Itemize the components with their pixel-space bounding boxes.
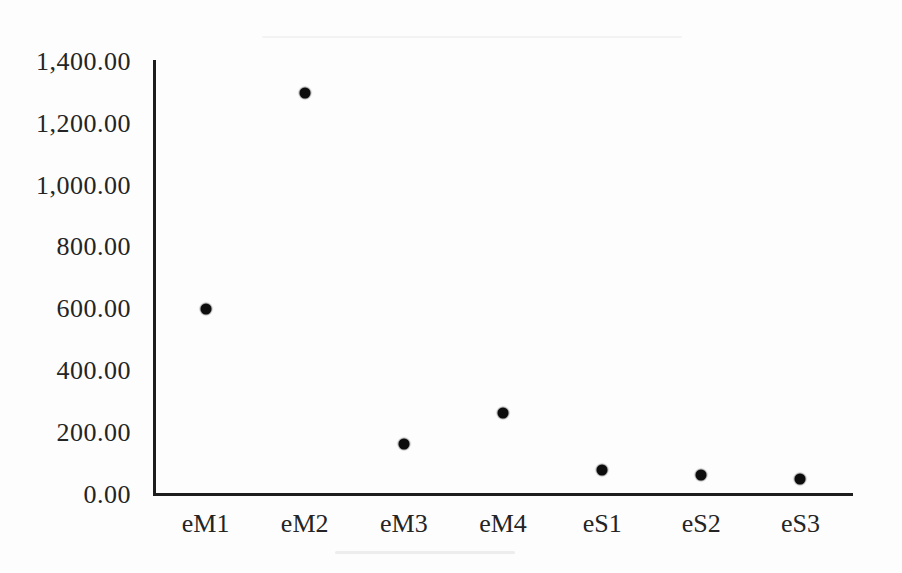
data-point-eM3 xyxy=(398,438,409,449)
x-tick-label: eM2 xyxy=(255,509,355,539)
scan-artifact-line xyxy=(335,551,515,554)
x-tick-label: eM1 xyxy=(156,509,256,539)
data-point-eM2 xyxy=(299,87,310,98)
data-point-eS1 xyxy=(597,464,608,475)
y-tick-label: 1,200.00 xyxy=(6,109,131,139)
x-tick-label: eM4 xyxy=(453,509,553,539)
y-tick-label: 600.00 xyxy=(6,294,131,324)
y-tick-label: 1,400.00 xyxy=(6,47,131,77)
x-tick-label: eS2 xyxy=(651,509,751,539)
x-tick-label: eS3 xyxy=(750,509,850,539)
y-tick-label: 1,000.00 xyxy=(6,171,131,201)
data-point-eM1 xyxy=(200,304,211,315)
x-tick-label: eM3 xyxy=(354,509,454,539)
y-tick-label: 0.00 xyxy=(6,480,131,510)
data-point-eM4 xyxy=(498,407,509,418)
data-point-eS2 xyxy=(696,470,707,481)
scan-artifact-line xyxy=(262,36,682,38)
plot-area xyxy=(153,60,853,496)
scatter-chart-figure: 0.00200.00400.00600.00800.001,000.001,20… xyxy=(0,0,902,573)
x-tick-label: eS1 xyxy=(552,509,652,539)
y-tick-label: 400.00 xyxy=(6,356,131,386)
data-point-eS3 xyxy=(795,474,806,485)
y-tick-label: 800.00 xyxy=(6,232,131,262)
y-tick-label: 200.00 xyxy=(6,418,131,448)
